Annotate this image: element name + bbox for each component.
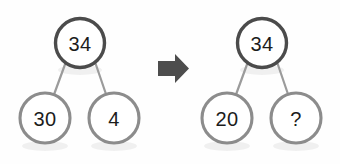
right-tree-right-child-node[interactable]: ? (271, 93, 321, 143)
right-tree-root-label: 34 (251, 33, 274, 55)
right-number-bond-tree: 34 20 ? (0, 0, 340, 164)
right-tree-unknown-child-label: ? (290, 108, 301, 130)
right-tree-left-child-label: 20 (216, 108, 239, 130)
right-tree-root-node[interactable]: 34 (238, 19, 287, 68)
diagram-canvas: 34 30 4 34 20 ? (0, 0, 340, 164)
right-tree-left-child-node[interactable]: 20 (202, 93, 252, 143)
